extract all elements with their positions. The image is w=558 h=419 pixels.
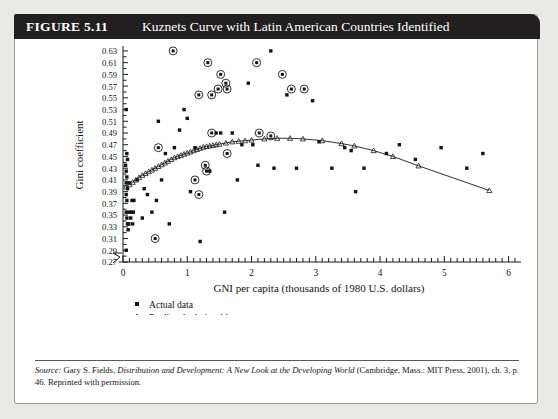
x-tick-label: 1 — [185, 268, 190, 278]
x-tick-label: 3 — [313, 268, 318, 278]
y-tick-label: 0.33 — [102, 222, 117, 232]
figure-number: FIGURE 5.11 — [26, 19, 108, 35]
legend-square-marker-icon — [135, 302, 139, 306]
latin-american-country-marker-core — [193, 178, 196, 181]
actual-data-point — [256, 164, 259, 167]
actual-data-point — [127, 222, 130, 225]
y-tick-label: 0.57 — [102, 82, 118, 92]
source-author: Gary S. Fields, — [61, 365, 117, 375]
y-tick-label: 0.63 — [102, 46, 117, 56]
actual-data-point — [125, 108, 128, 111]
actual-data-point — [251, 143, 254, 146]
figure-card: FIGURE 5.11 Kuznets Curve with Latin Ame… — [14, 14, 538, 404]
latin-american-country-marker-core — [269, 134, 272, 137]
latin-american-country-marker-core — [219, 73, 222, 76]
y-tick-label: 0.53 — [102, 105, 117, 115]
actual-data-point — [439, 146, 442, 149]
actual-data-point — [247, 81, 250, 84]
actual-data-point — [125, 169, 128, 172]
y-tick-label: 0.41 — [102, 175, 117, 185]
actual-data-point — [481, 152, 484, 155]
actual-data-point — [186, 117, 189, 120]
actual-data-point — [125, 249, 128, 252]
actual-data-point — [354, 190, 357, 193]
predicted-relationship-points — [124, 136, 492, 193]
y-tick-label: 0.31 — [102, 234, 117, 244]
y-tick-label: 0.61 — [102, 58, 117, 68]
actual-data-point — [129, 216, 132, 219]
actual-data-point — [343, 146, 346, 149]
latin-american-country-marker-core — [224, 82, 227, 85]
y-tick-label: 0.51 — [102, 117, 117, 127]
latin-american-country-marker-core — [206, 61, 209, 64]
y-axis-tick-labels: 0.270.290.310.330.350.370.390.410.430.45… — [102, 46, 118, 267]
actual-data-point — [349, 149, 352, 152]
chart-axes — [113, 46, 521, 263]
source-note: Source: Gary S. Fields, Distribution and… — [35, 364, 519, 389]
x-tick-label: 6 — [506, 268, 511, 278]
actual-data-point — [150, 210, 153, 213]
y-tick-label: 0.59 — [102, 70, 117, 80]
actual-data-point — [143, 187, 146, 190]
latin-american-country-marker-core — [255, 61, 258, 64]
actual-data-point — [125, 152, 128, 155]
actual-data-point — [182, 108, 185, 111]
latin-american-country-marker-core — [210, 132, 213, 135]
actual-data-point — [295, 166, 298, 169]
source-label: Source: — [35, 365, 61, 375]
actual-data-point — [231, 131, 234, 134]
y-tick-label: 0.47 — [102, 140, 118, 150]
actual-data-point — [219, 131, 222, 134]
actual-data-points — [124, 49, 485, 252]
latin-american-country-marker-core — [204, 164, 207, 167]
figure-header-bar: FIGURE 5.11 Kuznets Curve with Latin Ame… — [14, 14, 540, 39]
actual-data-point — [131, 222, 134, 225]
actual-data-point — [414, 158, 417, 161]
predicted-relationship-line — [126, 138, 489, 190]
actual-data-point — [214, 131, 217, 134]
actual-data-point — [198, 240, 201, 243]
actual-data-point — [236, 178, 239, 181]
actual-data-point — [160, 178, 163, 181]
chart-plot-area: 0.270.290.310.330.350.370.390.410.430.45… — [15, 40, 537, 315]
x-tick-label: 2 — [249, 268, 254, 278]
latin-american-country-marker-core — [217, 88, 220, 91]
chart-legend: Actual dataPredicted relationshipLatin A… — [133, 299, 241, 315]
source-work-title: Distribution and Development: A New Look… — [117, 365, 354, 375]
y-tick-label: 0.37 — [102, 199, 118, 209]
y-tick-label: 0.45 — [102, 152, 117, 162]
actual-data-point — [223, 210, 226, 213]
actual-data-point — [164, 152, 167, 155]
latin-american-country-marker-core — [172, 49, 175, 52]
actual-data-point — [155, 199, 158, 202]
actual-data-point — [157, 120, 160, 123]
source-divider — [35, 360, 519, 361]
actual-data-point — [272, 166, 275, 169]
latin-american-country-marker-core — [303, 88, 306, 91]
actual-data-point — [124, 164, 127, 167]
latin-american-country-marker-core — [258, 132, 261, 135]
kuznets-curve-chart: 0.270.290.310.330.350.370.390.410.430.45… — [15, 40, 537, 315]
figure-title: Kuznets Curve with Latin American Countr… — [142, 19, 449, 35]
actual-data-point — [189, 190, 192, 193]
legend-item-label: Predicted relationship — [149, 312, 233, 315]
actual-data-point — [362, 166, 365, 169]
x-tick-label: 4 — [378, 268, 383, 278]
latin-american-country-marker-core — [210, 93, 213, 96]
legend-triangle-marker-icon — [134, 314, 140, 315]
actual-data-point — [132, 199, 135, 202]
actual-data-point — [330, 166, 333, 169]
actual-data-point — [311, 99, 314, 102]
latin-american-country-marker-core — [281, 73, 284, 76]
y-axis-label: Gini coefficient — [73, 120, 85, 189]
y-tick-label: 0.43 — [102, 164, 117, 174]
latin-american-country-marker-core — [197, 93, 200, 96]
latin-american-country-marker-core — [197, 193, 200, 196]
actual-data-point — [125, 216, 128, 219]
y-tick-label: 0.39 — [102, 187, 117, 197]
actual-data-point — [385, 152, 388, 155]
actual-data-point — [125, 199, 128, 202]
latin-american-country-marker-core — [157, 146, 160, 149]
actual-data-point — [132, 210, 135, 213]
y-tick-label: 0.55 — [102, 93, 117, 103]
